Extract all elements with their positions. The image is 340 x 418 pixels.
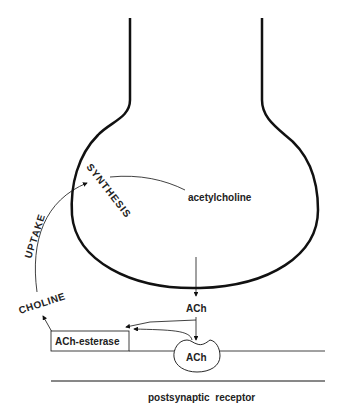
ach-released-label: ACh <box>186 303 207 314</box>
esterase-to-choline-arrow <box>43 316 52 332</box>
uptake-label: UPTAKE <box>22 212 47 260</box>
receptor-to-esterase-arrow <box>134 329 192 340</box>
diagram-canvas: acetylcholine SYNTHESIS UPTAKE CHOLINE A… <box>0 0 340 418</box>
presynaptic-terminal <box>72 18 318 288</box>
acetylcholine-label: acetylcholine <box>188 192 252 203</box>
choline-label: CHOLINE <box>17 290 67 315</box>
ach-to-esterase-arrow <box>126 320 196 327</box>
ach-bound-label: ACh <box>186 352 207 363</box>
synapse-diagram: acetylcholine SYNTHESIS UPTAKE CHOLINE A… <box>0 0 340 418</box>
ach-esterase-label: ACh-esterase <box>55 336 120 347</box>
synthesis-label: SYNTHESIS <box>84 161 133 220</box>
acetylcholine-leader-line <box>110 176 185 190</box>
postsynaptic-receptor-label: postsynaptic receptor <box>148 392 255 403</box>
